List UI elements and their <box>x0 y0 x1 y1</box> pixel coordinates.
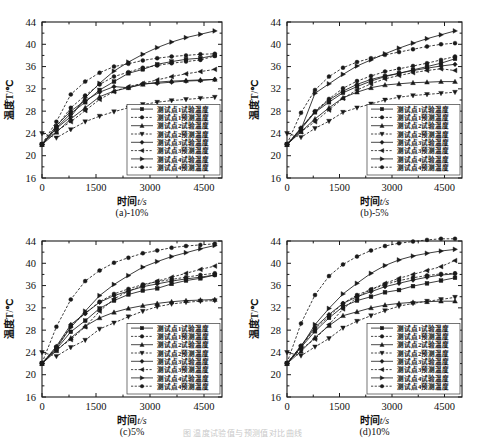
svg-text:测试点2试验温度: 测试点2试验温度 <box>157 340 209 349</box>
svg-text:测试点3预测温度: 测试点3预测温度 <box>397 146 449 155</box>
svg-text:16: 16 <box>26 392 37 403</box>
svg-text:36: 36 <box>26 61 37 72</box>
svg-text:4500: 4500 <box>434 182 455 193</box>
svg-text:32: 32 <box>271 302 282 313</box>
svg-text:测试点1预测温度: 测试点1预测温度 <box>157 113 209 122</box>
svg-text:32: 32 <box>26 83 37 94</box>
svg-text:测试点3试验温度: 测试点3试验温度 <box>397 357 449 366</box>
svg-text:测试点2试验温度: 测试点2试验温度 <box>397 340 449 349</box>
svg-text:3000: 3000 <box>382 401 403 412</box>
svg-text:0: 0 <box>284 182 289 193</box>
svg-text:36: 36 <box>271 280 282 291</box>
svg-text:测试点2预测温度: 测试点2预测温度 <box>397 130 449 139</box>
svg-text:1500: 1500 <box>86 182 107 193</box>
svg-text:测试点2预测温度: 测试点2预测温度 <box>397 349 449 358</box>
svg-text:测试点4预测温度: 测试点4预测温度 <box>397 163 449 172</box>
x-axis-title: 时间t/s <box>360 195 390 207</box>
svg-text:16: 16 <box>26 173 37 184</box>
svg-text:44: 44 <box>26 236 37 247</box>
svg-text:测试点1试验温度: 测试点1试验温度 <box>157 324 209 333</box>
svg-text:24: 24 <box>271 347 282 358</box>
svg-text:3000: 3000 <box>140 401 161 412</box>
svg-text:测试点1试验温度: 测试点1试验温度 <box>397 105 449 114</box>
svg-text:28: 28 <box>26 325 37 336</box>
svg-text:测试点2预测温度: 测试点2预测温度 <box>157 130 209 139</box>
chart-panel-b: 16202428323640440150030004500测试点1试验温度测试点… <box>245 0 485 219</box>
svg-text:4500: 4500 <box>194 182 215 193</box>
svg-text:测试点3试验温度: 测试点3试验温度 <box>397 138 449 147</box>
svg-text:测试点4试验温度: 测试点4试验温度 <box>157 374 209 383</box>
svg-text:36: 36 <box>26 280 37 291</box>
y-axis-title: 温度T/℃ <box>3 80 15 120</box>
svg-text:测试点4预测温度: 测试点4预测温度 <box>157 382 209 391</box>
svg-text:40: 40 <box>271 258 282 269</box>
svg-text:20: 20 <box>26 369 37 380</box>
y-axis-title: 温度T/℃ <box>248 80 260 120</box>
svg-text:测试点3试验温度: 测试点3试验温度 <box>157 357 209 366</box>
svg-text:0: 0 <box>284 401 289 412</box>
chart-panel-c: 16202428323640440150030004500测试点1试验温度测试点… <box>0 219 245 438</box>
svg-text:28: 28 <box>26 106 37 117</box>
svg-text:测试点4试验温度: 测试点4试验温度 <box>397 155 449 164</box>
svg-text:测试点1预测温度: 测试点1预测温度 <box>397 113 449 122</box>
svg-text:测试点3预测温度: 测试点3预测温度 <box>397 365 449 374</box>
svg-text:测试点1试验温度: 测试点1试验温度 <box>157 105 209 114</box>
svg-text:1500: 1500 <box>86 401 107 412</box>
figure-footer-fragment: 图 温度试验值与预测值对比曲线 <box>0 429 485 438</box>
svg-text:3000: 3000 <box>140 182 161 193</box>
svg-text:测试点4试验温度: 测试点4试验温度 <box>157 155 209 164</box>
x-axis-title: 时间t/s <box>117 195 147 207</box>
svg-text:32: 32 <box>26 302 37 313</box>
svg-text:24: 24 <box>26 128 37 139</box>
svg-text:44: 44 <box>271 17 282 28</box>
svg-text:40: 40 <box>26 39 37 50</box>
panel-caption: (a)-10% <box>116 207 149 219</box>
svg-text:0: 0 <box>39 182 44 193</box>
svg-text:40: 40 <box>26 258 37 269</box>
svg-text:测试点1预测温度: 测试点1预测温度 <box>397 332 449 341</box>
svg-text:1500: 1500 <box>329 182 350 193</box>
svg-text:1500: 1500 <box>329 401 350 412</box>
svg-text:测试点3预测温度: 测试点3预测温度 <box>157 365 209 374</box>
svg-text:20: 20 <box>26 150 37 161</box>
svg-text:3000: 3000 <box>382 182 403 193</box>
svg-text:4500: 4500 <box>194 401 215 412</box>
svg-text:40: 40 <box>271 39 282 50</box>
svg-text:44: 44 <box>26 17 37 28</box>
svg-text:32: 32 <box>271 83 282 94</box>
y-axis-title: 温度T/℃ <box>3 299 15 339</box>
svg-text:0: 0 <box>39 401 44 412</box>
svg-text:测试点1试验温度: 测试点1试验温度 <box>397 324 449 333</box>
svg-text:测试点2试验温度: 测试点2试验温度 <box>157 121 209 130</box>
svg-text:16: 16 <box>271 173 282 184</box>
svg-text:测试点3预测温度: 测试点3预测温度 <box>157 146 209 155</box>
svg-text:20: 20 <box>271 369 282 380</box>
figure-panel-grid: 16202428323640440150030004500测试点1试验温度测试点… <box>0 0 485 438</box>
panel-caption: (b)-5% <box>360 207 388 219</box>
svg-text:24: 24 <box>26 347 37 358</box>
svg-text:测试点4预测温度: 测试点4预测温度 <box>397 382 449 391</box>
svg-text:测试点2试验温度: 测试点2试验温度 <box>397 121 449 130</box>
svg-text:20: 20 <box>271 150 282 161</box>
svg-text:测试点4预测温度: 测试点4预测温度 <box>157 163 209 172</box>
svg-text:测试点2预测温度: 测试点2预测温度 <box>157 349 209 358</box>
svg-text:28: 28 <box>271 106 282 117</box>
chart-panel-d: 16202428323640440150030004500测试点1试验温度测试点… <box>245 219 485 438</box>
svg-text:24: 24 <box>271 128 282 139</box>
svg-text:测试点3试验温度: 测试点3试验温度 <box>157 138 209 147</box>
svg-text:4500: 4500 <box>434 401 455 412</box>
svg-text:测试点1预测温度: 测试点1预测温度 <box>157 332 209 341</box>
x-axis-title: 时间t/s <box>360 414 390 426</box>
svg-text:28: 28 <box>271 325 282 336</box>
svg-text:16: 16 <box>271 392 282 403</box>
svg-text:44: 44 <box>271 236 282 247</box>
y-axis-title: 温度T/℃ <box>248 299 260 339</box>
svg-text:测试点4试验温度: 测试点4试验温度 <box>397 374 449 383</box>
x-axis-title: 时间t/s <box>117 414 147 426</box>
chart-panel-a: 16202428323640440150030004500测试点1试验温度测试点… <box>0 0 245 219</box>
svg-text:36: 36 <box>271 61 282 72</box>
